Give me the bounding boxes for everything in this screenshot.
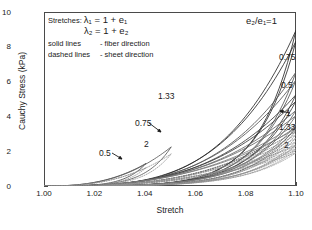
annotation-ratio-05-right: 0.5 [281, 81, 293, 90]
legend-solid-key: solid lines [48, 39, 100, 48]
y-tick-mark-0 [44, 186, 48, 187]
annotation-ratio-2-mid: 2 [144, 140, 149, 149]
equation-lambda-2: λ₂ = 1 + e₂ [84, 25, 128, 36]
cauchy-stress-stretch-chart: Cauchy Stress (kPa) 10 8 6 4 2 0 1.00 1.… [0, 0, 312, 230]
chart-notes: Stretches: λ₁ = 1 + e₁ λ₂ = 1 + e₂ solid… [48, 14, 153, 61]
curve-sheet-e2-e1-0-5-rep [44, 153, 296, 186]
legend-dashed-key: dashed lines [48, 50, 100, 59]
x-tick-mark-1-10 [296, 182, 297, 186]
curve-sheet-e2-e1-1 [44, 127, 296, 186]
note-eq2: λ₂ = 1 + e₂ [84, 25, 153, 36]
annotation-ratio-1-right: 1 [286, 109, 291, 118]
x-tick-label-1-00: 1.00 [29, 190, 59, 198]
y-tick-label-0: 0 [7, 183, 11, 191]
y-tick-label-4: 4 [7, 113, 11, 121]
arrow-ratio-05-mid-head [119, 156, 122, 159]
x-tick-label-1-02: 1.02 [79, 190, 109, 198]
stretches-label: Stretches: [48, 16, 82, 25]
x-axis-label: Stretch [44, 205, 296, 215]
y-tick-label-6: 6 [7, 78, 11, 86]
x-tick-label-1-06: 1.06 [180, 190, 210, 198]
annotation-ratio-075-right: 0.75 [279, 53, 296, 62]
legend-dashed-desc: - sheet direction [100, 50, 153, 59]
legend-solid-lines: solid lines- fiber direction [48, 39, 153, 50]
curve-fiber-e2-e1-0-5 [44, 95, 296, 186]
annotation-ratio-075-mid: 0.75 [135, 119, 152, 128]
x-tick-label-1-08: 1.08 [231, 190, 261, 198]
annotation-ratio-2-right: 2 [284, 141, 289, 150]
x-tick-label-1-10: 1.10 [281, 190, 311, 198]
annotation-ratio-133-mid: 1.33 [158, 92, 175, 101]
y-tick-label-10: 10 [2, 9, 11, 17]
annotation-ratio-top: e₂/e₁=1 [246, 16, 277, 26]
note-stretches-eq1: Stretches: λ₁ = 1 + e₁ [48, 14, 153, 25]
legend-dashed-lines: dashed lines- sheet direction [48, 50, 153, 61]
curve-fiber-e2-e1-2-rep [44, 129, 296, 186]
legend-solid-desc: - fiber direction [100, 39, 150, 48]
annotation-ratio-05-mid: 0.5 [99, 149, 111, 158]
annotation-ratio-133-right: 1.33 [279, 123, 296, 132]
y-tick-label-2: 2 [7, 148, 11, 156]
x-tick-label-1-04: 1.04 [130, 190, 160, 198]
y-axis-label: Cauchy Stress (kPa) [17, 21, 27, 161]
curve-fiber-e2-e1-0-75 [44, 72, 296, 186]
curve-sheet-e2-e1-1-33 [44, 135, 296, 186]
equation-lambda-1: λ₁ = 1 + e₁ [84, 14, 127, 25]
y-tick-label-8: 8 [7, 43, 11, 51]
